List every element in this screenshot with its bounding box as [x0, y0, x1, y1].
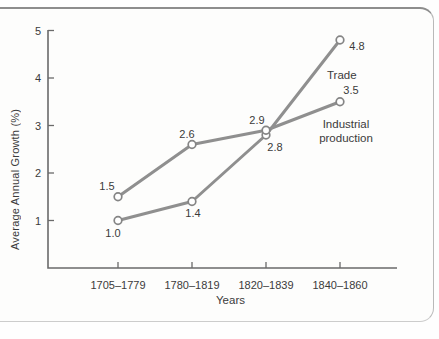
data-point-marker	[262, 126, 270, 134]
data-point-marker	[188, 198, 196, 206]
x-tick-label: 1820–1839	[238, 279, 293, 291]
data-point-label: 3.5	[343, 84, 358, 96]
data-point-marker	[114, 193, 122, 201]
y-axis-title: Average Annual Growth (%)	[9, 70, 21, 250]
axes	[48, 30, 397, 268]
data-point-label: 1.5	[99, 180, 114, 192]
y-tick-label: 3	[35, 120, 41, 132]
data-point-marker	[336, 36, 344, 44]
series-label-industrial-production: Industrial production	[285, 118, 407, 145]
data-point-marker	[336, 98, 344, 106]
series-label-industrial-line1: Industrial	[285, 118, 407, 132]
data-point-label: 1.0	[105, 227, 120, 239]
data-point-label: 1.4	[185, 207, 200, 219]
data-point-label: 2.6	[179, 128, 194, 140]
growth-line-chart: 123451705–17791780–18191820–18391840–186…	[0, 0, 439, 339]
y-tick-label: 1	[35, 215, 41, 227]
y-tick-label: 5	[35, 25, 41, 37]
data-point-label: 2.9	[249, 114, 264, 126]
data-point-marker	[188, 141, 196, 149]
data-point-label: 2.8	[267, 141, 282, 153]
data-point-label: 4.8	[349, 40, 364, 52]
y-tick-label: 4	[35, 72, 41, 84]
series-label-trade: Trade	[327, 69, 357, 81]
y-tick-label: 2	[35, 167, 41, 179]
x-tick-label: 1840–1860	[312, 279, 367, 291]
series-line-industrial-production	[118, 102, 340, 197]
figure-page: 123451705–17791780–18191820–18391840–186…	[0, 0, 439, 339]
x-tick-label: 1780–1819	[164, 279, 219, 291]
x-tick-label: 1705–1779	[90, 279, 145, 291]
series-label-industrial-line2: production	[285, 132, 407, 146]
x-axis-title: Years	[48, 294, 413, 306]
data-point-marker	[114, 217, 122, 225]
